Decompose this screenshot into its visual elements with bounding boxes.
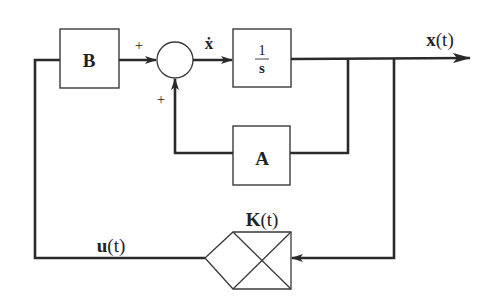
a-branch-wire: [290, 59, 348, 153]
integrator-numerator: 1: [258, 42, 266, 58]
summing-junction: [157, 42, 193, 78]
b-block-label: B: [83, 50, 96, 71]
integrator-block: 1 s: [233, 29, 291, 87]
x-output-label: x(t): [426, 29, 453, 51]
gain-block: K(t): [205, 209, 291, 289]
gain-label: K(t): [246, 209, 279, 231]
xdot-label: ẋ: [205, 34, 214, 53]
b-block: B: [60, 29, 119, 88]
state-to-gain-arrow: [292, 59, 394, 258]
a-to-sum-arrow: [175, 79, 233, 153]
u-control-label: u(t): [97, 235, 126, 257]
state-output-arrow: [291, 58, 470, 59]
control-signal-wire: [35, 60, 205, 258]
sum-plus-left: +: [135, 37, 143, 53]
a-block: A: [233, 126, 290, 185]
integrator-denominator: s: [259, 60, 265, 76]
a-block-label: A: [255, 148, 269, 169]
sum-plus-bottom: +: [157, 91, 165, 107]
block-diagram: B + + ẋ 1 s x(t) A K(t) u(t): [0, 0, 492, 305]
